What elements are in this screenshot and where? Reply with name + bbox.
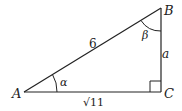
angle-arc-alpha [53, 75, 58, 93]
angle-label-beta: β [141, 29, 148, 42]
angle-label-alpha: α [60, 76, 68, 89]
right-angle-marker [150, 81, 161, 92]
side-label-ab: 6 [89, 37, 97, 51]
side-label-ac: √11 [83, 96, 104, 109]
side-label-bc: a [162, 47, 169, 61]
vertex-label-c: C [164, 86, 174, 101]
right-triangle-diagram: A B C 6 √11 a α β [0, 0, 182, 111]
vertex-label-b: B [163, 3, 174, 18]
vertex-label-a: A [11, 86, 21, 101]
